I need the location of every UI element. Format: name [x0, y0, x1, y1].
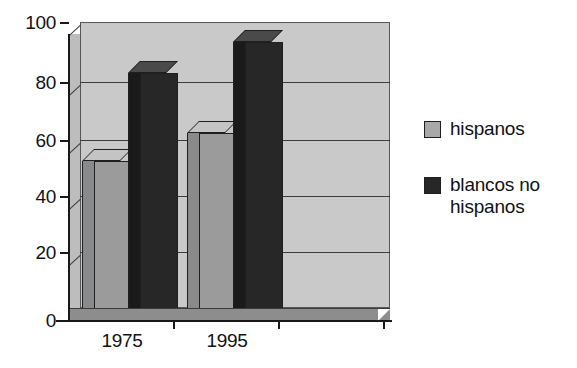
legend-item-hispanos: hispanos	[424, 118, 574, 140]
x-tick-2	[278, 320, 280, 329]
y-tick-label-0: 0	[4, 311, 56, 330]
bar-1975-blancos-no-hispanos	[140, 61, 178, 320]
legend-label: blancos no hispanos	[450, 174, 540, 218]
y-tick-label-60: 60	[4, 131, 56, 150]
x-tick-3	[383, 320, 385, 329]
bar-front-face	[199, 133, 237, 320]
legend-swatch-icon	[424, 177, 441, 194]
bar-front-face	[140, 73, 178, 320]
x-tick-label-1995: 1995	[182, 330, 272, 352]
legend-item-blancos-no-hispanos: blancos no hispanos	[424, 174, 574, 218]
bar-front-face	[245, 42, 283, 320]
bar-side-face	[187, 133, 199, 320]
y-tick-label-100: 100	[4, 13, 56, 32]
y-tick-60	[60, 140, 69, 142]
y-tick-20	[60, 252, 69, 254]
x-axis-line	[68, 320, 392, 322]
y-tick-label-80: 80	[4, 73, 56, 92]
y-axis-line	[68, 34, 70, 321]
y-tick-100	[60, 22, 69, 24]
bar-chart: 100 80 60 40 20 0 1975 1995 hispanos bla…	[0, 0, 577, 368]
legend-swatch-icon	[424, 121, 441, 138]
y-tick-80	[60, 82, 69, 84]
legend: hispanos blancos no hispanos	[424, 118, 574, 252]
bar-side-face	[233, 42, 245, 320]
y-tick-40	[60, 196, 69, 198]
bar-side-face	[128, 73, 140, 320]
bar-1995-hispanos	[199, 121, 237, 320]
bar-1995-blancos-no-hispanos	[245, 30, 283, 320]
y-tick-0	[56, 320, 69, 322]
bar-side-face	[82, 161, 94, 320]
legend-label: hispanos	[450, 118, 524, 140]
y-tick-label-20: 20	[4, 243, 56, 262]
y-tick-label-40: 40	[4, 187, 56, 206]
x-tick-label-1975: 1975	[77, 330, 167, 352]
bar-front-face	[94, 161, 132, 320]
bar-1975-hispanos	[94, 149, 132, 320]
x-tick-1	[173, 320, 175, 329]
